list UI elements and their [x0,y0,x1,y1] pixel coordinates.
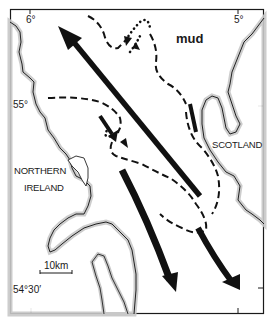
scale-bar-label: 10km [44,261,68,271]
latitude-54-30-label: 54°30′ [13,285,41,295]
northern-ireland-label-line1: NORTHERN [14,166,66,176]
scotland-label: SCOTLAND [212,140,262,150]
longitude-5-label: 5° [234,15,244,25]
latitude-55-label: 55° [13,100,28,110]
scotland-coast [202,18,264,224]
mud-label: mud [176,32,203,45]
map-canvas [0,0,271,319]
arrow-northwest [72,40,200,196]
arrow-southeast-east [198,228,232,282]
bar-east [190,104,196,132]
arrowhead-southeast-centre [162,272,178,292]
northern-ireland-label-line2: IRELAND [24,183,64,193]
longitude-6-label: 6° [26,15,36,25]
